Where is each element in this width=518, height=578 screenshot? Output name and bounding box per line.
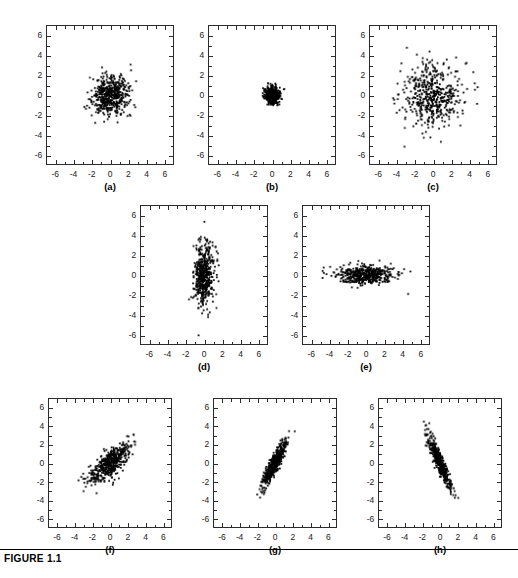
plot-frame-g <box>213 398 337 528</box>
panel-label-d: (d) <box>198 361 210 372</box>
scatter-points-c <box>370 26 496 164</box>
y-tick-label: -6 <box>347 150 365 160</box>
x-tick-label: -2 <box>250 169 257 179</box>
x-tick-label: -6 <box>214 169 221 179</box>
x-tick-label: 4 <box>473 532 478 542</box>
plot-frame-d <box>140 205 268 345</box>
x-tick-label: 0 <box>270 169 275 179</box>
x-tick-label: -4 <box>401 532 408 542</box>
y-tick-label: -4 <box>26 495 44 505</box>
plot-frame-h <box>378 398 502 528</box>
plot-frame-f <box>48 398 172 528</box>
caption-rule <box>0 549 518 550</box>
y-tick-label: 6 <box>24 30 42 40</box>
scatter-panel-f: -6-4-202466420-2-4-6 <box>48 398 172 528</box>
y-tick-label: 0 <box>280 270 298 280</box>
x-tick-label: 2 <box>449 169 454 179</box>
y-tick-label: -4 <box>347 130 365 140</box>
y-tick-label: -6 <box>191 514 209 524</box>
x-tick-label: 6 <box>161 532 166 542</box>
x-tick-label: -6 <box>146 349 153 359</box>
x-tick-label: -2 <box>89 532 96 542</box>
x-tick-label: 2 <box>288 169 293 179</box>
scatter-points-g <box>214 399 336 527</box>
y-tick-label: -2 <box>347 110 365 120</box>
y-tick-label: 4 <box>24 50 42 60</box>
x-tick-label: 0 <box>108 532 113 542</box>
y-tick-label: 0 <box>191 458 209 468</box>
y-tick-label: -2 <box>280 290 298 300</box>
x-tick-label: 6 <box>326 532 331 542</box>
y-tick-label: 2 <box>191 439 209 449</box>
y-tick-label: -6 <box>118 330 136 340</box>
x-tick-label: 4 <box>306 169 311 179</box>
x-tick-label: 6 <box>163 169 168 179</box>
x-tick-label: -6 <box>375 169 382 179</box>
x-tick-label: 6 <box>325 169 330 179</box>
y-tick-label: 2 <box>26 439 44 449</box>
x-tick-label: 0 <box>108 169 113 179</box>
y-tick-label: 6 <box>347 30 365 40</box>
y-tick-label: 0 <box>24 90 42 100</box>
x-tick-label: -6 <box>308 349 315 359</box>
x-tick-label: -2 <box>344 349 351 359</box>
x-tick-label: 4 <box>308 532 313 542</box>
panel-label-c: (c) <box>427 181 439 192</box>
x-tick-label: -4 <box>70 169 77 179</box>
x-tick-label: 4 <box>144 169 149 179</box>
x-tick-label: -4 <box>393 169 400 179</box>
y-tick-label: 0 <box>118 270 136 280</box>
y-tick-label: 6 <box>356 402 374 412</box>
x-tick-label: -2 <box>182 349 189 359</box>
plot-frame-b <box>208 25 336 165</box>
x-tick-label: -6 <box>383 532 390 542</box>
scatter-panel-g: -6-4-202466420-2-4-6 <box>213 398 337 528</box>
x-tick-label: -2 <box>254 532 261 542</box>
scatter-points-d <box>141 206 267 344</box>
x-tick-label: 6 <box>486 169 491 179</box>
y-tick-label: 6 <box>26 402 44 412</box>
y-tick-label: -4 <box>118 310 136 320</box>
x-tick-label: 4 <box>238 349 243 359</box>
y-tick-label: -2 <box>191 477 209 487</box>
x-tick-label: 0 <box>364 349 369 359</box>
y-tick-label: -6 <box>24 150 42 160</box>
scatter-panel-e: -6-4-202466420-2-4-6 <box>302 205 430 345</box>
x-tick-label: -6 <box>53 532 60 542</box>
x-tick-label: 0 <box>431 169 436 179</box>
x-tick-label: 6 <box>491 532 496 542</box>
y-tick-label: -4 <box>191 495 209 505</box>
y-tick-label: -2 <box>26 477 44 487</box>
x-tick-label: -4 <box>232 169 239 179</box>
x-tick-label: -2 <box>411 169 418 179</box>
y-tick-label: 2 <box>356 439 374 449</box>
x-tick-label: 6 <box>419 349 424 359</box>
y-tick-label: 6 <box>280 210 298 220</box>
y-tick-label: -2 <box>118 290 136 300</box>
y-tick-label: -6 <box>280 330 298 340</box>
x-tick-label: 4 <box>143 532 148 542</box>
y-tick-label: -2 <box>24 110 42 120</box>
scatter-points-e <box>303 206 429 344</box>
x-tick-label: -2 <box>419 532 426 542</box>
y-tick-label: -6 <box>186 150 204 160</box>
plot-frame-e <box>302 205 430 345</box>
x-tick-label: -4 <box>164 349 171 359</box>
x-tick-label: 6 <box>257 349 262 359</box>
y-tick-label: -4 <box>356 495 374 505</box>
figure-caption: FIGURE 1.1 <box>4 552 62 564</box>
y-tick-label: 4 <box>26 421 44 431</box>
y-tick-label: 2 <box>24 70 42 80</box>
y-tick-label: 4 <box>191 421 209 431</box>
plot-frame-a <box>46 25 174 165</box>
y-tick-label: -4 <box>186 130 204 140</box>
y-tick-label: 4 <box>186 50 204 60</box>
y-tick-label: -2 <box>186 110 204 120</box>
panel-label-e: (e) <box>360 361 372 372</box>
x-tick-label: -2 <box>88 169 95 179</box>
y-tick-label: 4 <box>118 230 136 240</box>
scatter-panel-c: -6-4-202466420-2-4-6 <box>369 25 497 165</box>
y-tick-label: 4 <box>280 230 298 240</box>
y-tick-label: -6 <box>26 514 44 524</box>
y-tick-label: 6 <box>191 402 209 412</box>
